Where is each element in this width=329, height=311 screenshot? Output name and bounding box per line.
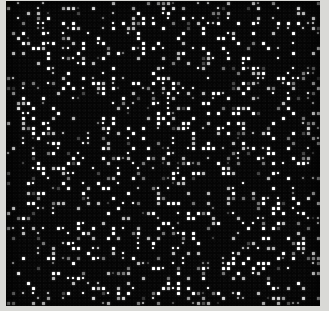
lattice-dot xyxy=(142,127,145,130)
lattice-dot xyxy=(172,232,175,235)
lattice-dot xyxy=(292,82,295,85)
lattice-dot xyxy=(157,292,160,295)
lattice-dot xyxy=(172,182,174,184)
lattice-dot xyxy=(157,197,160,200)
lattice-dot xyxy=(112,272,114,274)
lattice-dot xyxy=(182,257,184,259)
lattice-dot xyxy=(187,212,190,215)
lattice-dot xyxy=(252,267,255,270)
lattice-dot xyxy=(212,57,214,59)
lattice-dot xyxy=(142,262,144,264)
lattice-dot xyxy=(137,32,140,35)
lattice-dot xyxy=(187,297,190,300)
lattice-dot xyxy=(252,97,255,100)
lattice-dot xyxy=(127,192,130,195)
lattice-dot xyxy=(112,2,115,5)
lattice-dot xyxy=(72,162,75,165)
lattice-dot xyxy=(202,172,205,175)
lattice-dot xyxy=(282,202,285,205)
lattice-dot xyxy=(202,102,205,105)
lattice-dot xyxy=(97,87,100,90)
lattice-dot xyxy=(292,192,294,194)
lattice-dot xyxy=(117,292,120,295)
lattice-dot xyxy=(92,227,95,230)
lattice-dot xyxy=(232,37,235,40)
lattice-dot xyxy=(172,252,175,255)
lattice-dot xyxy=(312,252,315,255)
lattice-dot xyxy=(182,52,185,55)
lattice-dot xyxy=(152,212,155,215)
lattice-dot xyxy=(12,302,15,305)
lattice-dot xyxy=(192,172,195,175)
lattice-dot xyxy=(62,22,65,25)
lattice-dot xyxy=(287,82,290,85)
lattice-dot xyxy=(237,292,240,295)
lattice-dot xyxy=(37,27,39,29)
lattice-dot xyxy=(317,217,319,219)
lattice-dot xyxy=(87,202,90,205)
lattice-dot xyxy=(172,87,175,90)
dot-lattice xyxy=(6,1,320,306)
lattice-dot xyxy=(227,172,230,175)
lattice-dot xyxy=(317,262,320,265)
lattice-dot xyxy=(77,227,80,230)
lattice-dot xyxy=(272,17,274,19)
lattice-dot xyxy=(262,227,265,230)
lattice-dot xyxy=(217,302,219,304)
lattice-dot xyxy=(197,22,200,25)
lattice-dot xyxy=(167,102,169,104)
lattice-dot xyxy=(112,67,115,70)
lattice-dot xyxy=(152,82,155,85)
lattice-dot xyxy=(317,257,320,260)
lattice-dot xyxy=(227,157,230,160)
lattice-dot xyxy=(177,107,180,110)
lattice-dot xyxy=(262,72,265,75)
lattice-dot xyxy=(222,147,224,149)
lattice-dot xyxy=(237,112,240,115)
lattice-dot xyxy=(32,47,35,50)
lattice-dot xyxy=(37,62,40,65)
lattice-dot xyxy=(167,107,169,109)
lattice-dot xyxy=(47,32,49,34)
lattice-dot xyxy=(52,132,55,135)
lattice-dot xyxy=(302,247,305,250)
lattice-dot xyxy=(162,87,165,90)
lattice-dot xyxy=(162,177,165,180)
dot-field xyxy=(6,1,320,306)
lattice-dot xyxy=(217,112,220,115)
lattice-dot xyxy=(162,287,165,290)
lattice-dot xyxy=(207,2,209,4)
lattice-dot xyxy=(52,187,54,189)
lattice-dot xyxy=(277,202,280,205)
lattice-dot xyxy=(237,152,239,154)
lattice-dot xyxy=(207,267,209,269)
lattice-dot xyxy=(192,232,195,235)
lattice-dot xyxy=(97,42,99,44)
lattice-dot xyxy=(272,92,274,94)
lattice-dot xyxy=(102,292,105,295)
lattice-dot xyxy=(72,22,75,25)
lattice-dot xyxy=(187,252,190,255)
lattice-dot xyxy=(37,7,39,9)
lattice-dot xyxy=(277,57,279,59)
lattice-dot xyxy=(257,7,260,10)
lattice-dot xyxy=(207,52,210,55)
lattice-dot xyxy=(7,302,10,305)
lattice-dot xyxy=(307,217,309,219)
lattice-dot xyxy=(242,197,245,200)
lattice-dot xyxy=(152,92,154,94)
lattice-dot xyxy=(27,127,30,130)
lattice-dot xyxy=(242,62,244,64)
lattice-dot xyxy=(132,82,135,85)
lattice-dot xyxy=(112,117,115,120)
lattice-dot xyxy=(42,42,45,45)
lattice-dot xyxy=(87,282,89,284)
lattice-dot xyxy=(37,87,39,89)
lattice-dot xyxy=(237,272,240,275)
lattice-dot xyxy=(137,187,139,189)
lattice-dot xyxy=(32,147,34,149)
lattice-dot xyxy=(222,272,225,275)
lattice-dot xyxy=(72,117,75,120)
lattice-dot xyxy=(177,162,179,164)
lattice-dot xyxy=(307,97,309,99)
